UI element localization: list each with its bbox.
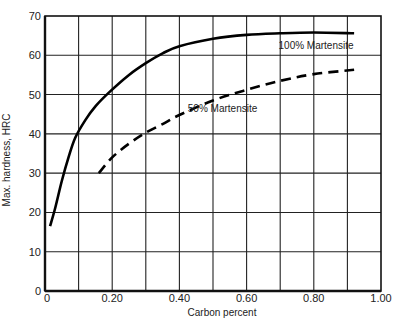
series-line-50-martensite [99,70,354,173]
x-tick-label: 0.40 [169,292,190,304]
y-tick-labels: 010203040506070 [29,10,41,297]
x-tick-label: 0 [44,292,50,304]
x-tick-label: 0.20 [101,292,122,304]
x-tick-labels: 00.200.400.600.801.00 [44,292,392,304]
y-tick-label: 20 [29,206,41,218]
hardness-vs-carbon-chart: 100% Martensite50% Martensite 00.200.400… [0,0,404,328]
y-tick-label: 40 [29,128,41,140]
y-axis-label: Max. hardness, HRC [1,114,12,207]
x-axis-label: Carbon percent [188,307,257,318]
y-tick-label: 50 [29,89,41,101]
x-tick-label: 1.00 [370,292,391,304]
series-line-100-martensite [50,33,354,227]
grid-lines [45,16,381,291]
y-tick-label: 60 [29,49,41,61]
series-label: 50% Martensite [188,103,258,114]
x-tick-label: 0.60 [236,292,257,304]
y-tick-label: 0 [35,285,41,297]
x-tick-label: 0.80 [303,292,324,304]
series-label: 100% Martensite [279,40,354,51]
data-series: 100% Martensite50% Martensite [50,33,354,227]
y-tick-label: 30 [29,167,41,179]
y-tick-label: 70 [29,10,41,22]
y-tick-label: 10 [29,246,41,258]
